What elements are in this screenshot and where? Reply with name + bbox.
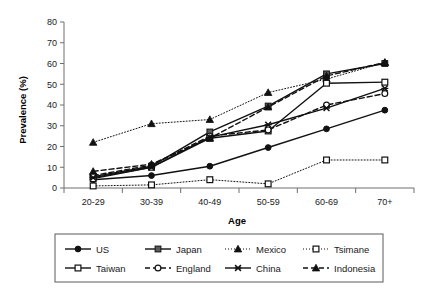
data-point-marker <box>382 107 388 113</box>
data-point-marker <box>75 265 81 271</box>
legend-label: US <box>96 244 109 255</box>
x-tick-label: 40-49 <box>198 197 221 207</box>
legend-label: Japan <box>176 244 202 255</box>
data-point-marker <box>324 126 330 132</box>
legend-label: Mexico <box>256 244 286 255</box>
y-tick-label: 70 <box>47 38 57 48</box>
y-tick-label: 60 <box>47 59 57 69</box>
data-point-marker <box>382 79 388 85</box>
prevalence-by-age-line-chart: 01020304050607080 20-2930-3940-4950-5960… <box>0 0 435 289</box>
chart-figure: 01020304050607080 20-2930-3940-4950-5960… <box>0 0 435 289</box>
x-tick-label: 30-39 <box>140 197 163 207</box>
data-point-marker <box>75 246 81 252</box>
data-point-marker <box>324 157 330 163</box>
x-tick-label: 60-69 <box>315 197 338 207</box>
data-point-marker <box>155 246 161 252</box>
x-tick-label: 50-59 <box>257 197 280 207</box>
legend-label: Indonesia <box>334 263 376 274</box>
legend-label: China <box>256 263 282 274</box>
y-axis-title: Prevalence (%) <box>17 76 28 144</box>
data-point-marker <box>313 246 319 252</box>
data-point-marker <box>265 181 271 187</box>
y-tick-label: 50 <box>47 80 57 90</box>
data-point-marker <box>90 183 96 189</box>
chart-background <box>0 0 435 289</box>
data-point-marker <box>382 157 388 163</box>
data-point-marker <box>265 127 271 133</box>
data-point-marker <box>324 80 330 86</box>
x-axis-title: Age <box>228 215 246 226</box>
x-tick-label: 70+ <box>377 197 392 207</box>
data-point-marker <box>149 182 155 188</box>
data-point-marker <box>207 163 213 169</box>
y-tick-label: 80 <box>47 17 57 27</box>
y-tick-label: 0 <box>52 183 57 193</box>
legend-label: Taiwan <box>96 263 126 274</box>
legend-label: England <box>176 263 211 274</box>
y-tick-label: 10 <box>47 163 57 173</box>
data-point-marker <box>155 265 161 271</box>
data-point-marker <box>382 91 388 97</box>
data-point-marker <box>149 173 155 179</box>
data-point-marker <box>265 145 271 151</box>
data-point-marker <box>207 177 213 183</box>
legend-label: Tsimane <box>334 244 369 255</box>
y-tick-label: 30 <box>47 121 57 131</box>
y-tick-label: 20 <box>47 142 57 152</box>
x-tick-label: 20-29 <box>82 197 105 207</box>
y-tick-label: 40 <box>47 100 57 110</box>
